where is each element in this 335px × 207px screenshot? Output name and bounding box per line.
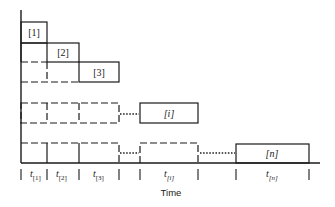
job-row-1: [1]	[21, 22, 47, 43]
waiting-segment	[21, 143, 119, 163]
job-row-2: [2]	[21, 43, 79, 62]
job-row-i: [i]	[21, 103, 198, 123]
interval-label-3: t[3]	[93, 168, 104, 182]
interval-label-i: t[i]	[164, 168, 174, 182]
job-label-1: [1]	[28, 27, 40, 38]
job-label-n: [n]	[266, 148, 279, 159]
job-label-2: [2]	[57, 47, 69, 58]
job-label-3: [3]	[93, 67, 105, 78]
job-row-n: [n]	[21, 143, 309, 163]
interval-label-2: t[2]	[56, 168, 67, 182]
interval-label-1: t[1]	[30, 168, 41, 182]
x-axis-label: Time	[161, 187, 182, 198]
job-label-i: [i]	[164, 108, 175, 119]
waiting-segment	[21, 103, 119, 123]
job-row-3: [3]	[21, 62, 119, 82]
interval-label-n: t[n]	[266, 168, 278, 182]
schedule-diagram: [1] [2] [3] [i] [n]	[0, 0, 335, 207]
waiting-segment	[140, 143, 198, 163]
